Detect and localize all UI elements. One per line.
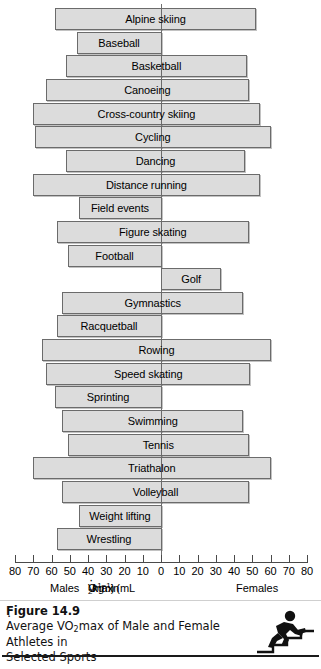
bar-row: Wrestling [0, 528, 321, 550]
bar-label: Gymnastics [62, 292, 243, 314]
axis-tick [198, 555, 199, 563]
axis-tick [307, 555, 308, 563]
bar-label: Cross-country skiing [33, 103, 259, 125]
bar-row: Sprinting [0, 386, 321, 408]
bar-label: Cycling [35, 126, 270, 148]
bar-row: Canoeing [0, 79, 321, 101]
caption-line-2: Selected Sports [6, 650, 256, 665]
bar-row: Volleyball [0, 481, 321, 503]
axis-tick [70, 555, 71, 563]
axis-tick [33, 555, 34, 563]
runner-climbing-stairs-icon [253, 608, 315, 654]
bar-label: Distance running [33, 174, 259, 196]
axis-tick [143, 555, 144, 563]
figure-container: Alpine skiingBaseballBasketballCanoeingC… [0, 0, 321, 669]
bar-label: Dancing [66, 150, 245, 172]
bar-label: Sprinting [55, 386, 161, 408]
bar-row: Golf [0, 268, 321, 290]
diverging-bar-chart: Alpine skiingBaseballBasketballCanoeingC… [0, 0, 321, 552]
axis-tick [106, 555, 107, 563]
bar-label: Canoeing [46, 79, 249, 101]
bar-label: Golf [161, 268, 221, 290]
axis-tick [15, 555, 16, 563]
caption-top-rule [0, 600, 321, 601]
bar-label: Weight lifting [79, 505, 161, 527]
caption-sub2: 2 [74, 625, 79, 634]
axis-tick [88, 555, 89, 563]
vo2-close: ) [111, 582, 115, 594]
footer-rule [2, 655, 319, 657]
bar-label: Racquetball [57, 315, 161, 337]
vo2-exp2: −1 [102, 581, 111, 590]
axis-tick [179, 555, 180, 563]
bar-row: Rowing [0, 339, 321, 361]
bar-label: Basketball [66, 55, 247, 77]
bar-row: Dancing [0, 150, 321, 172]
bar-label: Alpine skiing [55, 8, 256, 30]
axis-tick [161, 555, 162, 563]
bar-label: Rowing [42, 339, 270, 361]
figure-number: Figure 14.9 [6, 604, 256, 619]
caption-o: O [65, 619, 74, 633]
caption-vdot: Average V [6, 619, 65, 633]
axis-label-females: Females [236, 582, 278, 594]
axis-tick [234, 555, 235, 563]
bar-row: Basketball [0, 55, 321, 77]
bar-row: Swimming [0, 410, 321, 432]
bar-row: Racquetball [0, 315, 321, 337]
bar-label: Swimming [62, 410, 243, 432]
axis-tick [52, 555, 53, 563]
bar-row: Tennis [0, 434, 321, 456]
bar-row: Speed skating [0, 363, 321, 385]
vo2-exp1: −1 [92, 581, 101, 590]
bar-label: Football [68, 245, 161, 267]
bar-label: Speed skating [46, 363, 250, 385]
bar-label: Figure skating [57, 221, 249, 243]
axis-tick [271, 555, 272, 563]
axis-label-vo2max: VO2 max (mL·kg−1·min−1) [88, 582, 111, 594]
bar-label: Wrestling [57, 528, 161, 550]
bar-label: Triathalon [33, 457, 270, 479]
bar-row: Weight lifting [0, 505, 321, 527]
axis-tick-label: 80 [292, 565, 321, 577]
axis-label-males: Males [50, 582, 79, 594]
bar-row: Gymnastics [0, 292, 321, 314]
bar-label: Tennis [68, 434, 249, 456]
x-axis: Males VO2 max (mL·kg−1·min−1) Females 80… [0, 552, 321, 598]
axis-tick [125, 555, 126, 563]
bar-row: Field events [0, 197, 321, 219]
bar-label: Field events [79, 197, 161, 219]
bar-row: Baseball [0, 32, 321, 54]
bar-row: Triathalon [0, 457, 321, 479]
bar-row: Figure skating [0, 221, 321, 243]
bar-row: Football [0, 245, 321, 267]
bar-row: Distance running [0, 174, 321, 196]
bar-row: Cycling [0, 126, 321, 148]
axis-name-row: Males VO2 max (mL·kg−1·min−1) Females [0, 582, 321, 598]
bar-label: Baseball [77, 32, 161, 54]
bar-row: Cross-country skiing [0, 103, 321, 125]
axis-tick [289, 555, 290, 563]
axis-tick [216, 555, 217, 563]
axis-tick [252, 555, 253, 563]
bar-row: Alpine skiing [0, 8, 321, 30]
caption-line-1: Average VO2max of Male and Female Athlet… [6, 619, 256, 650]
bar-label: Volleyball [62, 481, 248, 503]
